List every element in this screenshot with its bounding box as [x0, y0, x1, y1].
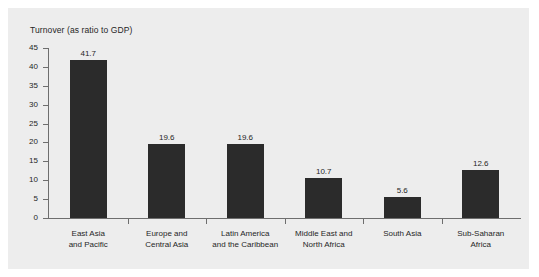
x-axis-tick	[285, 219, 286, 224]
y-axis-tick	[43, 124, 48, 125]
bar-group: 19.6	[227, 48, 264, 218]
x-axis-tick	[206, 219, 207, 224]
y-axis-tick-label: 0	[0, 213, 38, 222]
x-axis-category-label-line: Africa	[442, 239, 521, 250]
bar-group: 41.7	[70, 48, 107, 218]
bar	[70, 60, 107, 218]
bar-value-label: 10.7	[305, 167, 342, 176]
bar-value-label: 41.7	[70, 49, 107, 58]
x-axis-category-label: East Asiaand Pacific	[49, 228, 128, 250]
y-axis-tick-label: 15	[0, 156, 38, 165]
bar-value-label: 5.6	[384, 186, 421, 195]
y-axis-tick-label: 35	[0, 81, 38, 90]
x-axis-category-label-line: South Asia	[363, 228, 442, 239]
x-axis-category-label-line: Central Asia	[128, 239, 207, 250]
x-axis-category-label: Sub-SaharanAfrica	[442, 228, 521, 250]
x-axis-category-label: Middle East andNorth Africa	[285, 228, 364, 250]
x-axis-category-label: South Asia	[363, 228, 442, 239]
bar	[384, 197, 421, 218]
chart-title: Turnover (as ratio to GDP)	[30, 25, 132, 35]
y-axis-tick	[43, 180, 48, 181]
bar-value-label: 19.6	[148, 133, 185, 142]
bar	[462, 170, 499, 218]
y-axis-tick-label: 10	[0, 175, 38, 184]
x-axis-category-label-line: Latin America	[206, 228, 285, 239]
bar-value-label: 12.6	[462, 159, 499, 168]
x-axis-category-label-line: and Pacific	[49, 239, 128, 250]
chart-figure: Turnover (as ratio to GDP) 0510152025303…	[0, 0, 539, 277]
bar-group: 12.6	[462, 48, 499, 218]
x-axis-category-label-line: Europe and	[128, 228, 207, 239]
y-axis-tick	[43, 67, 48, 68]
x-axis-category-label-line: North Africa	[285, 239, 364, 250]
x-axis-category-label-line: East Asia	[49, 228, 128, 239]
bar-group: 5.6	[384, 48, 421, 218]
x-axis-tick	[442, 219, 443, 224]
bar-group: 19.6	[148, 48, 185, 218]
y-axis-tick	[43, 142, 48, 143]
x-axis-tick	[128, 219, 129, 224]
y-axis-tick	[43, 199, 48, 200]
bar	[148, 144, 185, 218]
bar	[305, 178, 342, 218]
x-axis-category-label-line: Sub-Saharan	[442, 228, 521, 239]
y-axis-tick-label: 40	[0, 62, 38, 71]
bar-group: 10.7	[305, 48, 342, 218]
x-axis-category-label: Latin Americaand the Caribbean	[206, 228, 285, 250]
bar	[227, 144, 264, 218]
y-axis-tick-label: 25	[0, 119, 38, 128]
y-axis-tick-label: 45	[0, 43, 38, 52]
bar-value-label: 19.6	[227, 133, 264, 142]
y-axis-tick-label: 30	[0, 100, 38, 109]
y-axis-tick	[43, 48, 48, 49]
y-axis-tick	[43, 161, 48, 162]
y-axis-tick-label: 20	[0, 137, 38, 146]
x-axis-category-label-line: Middle East and	[285, 228, 364, 239]
x-axis-tick	[363, 219, 364, 224]
x-axis-category-label-line: and the Caribbean	[206, 239, 285, 250]
y-axis-tick	[43, 218, 48, 219]
plot-area: 41.719.619.610.75.612.6	[49, 48, 520, 218]
y-axis-tick-label: 5	[0, 194, 38, 203]
y-axis-tick	[43, 86, 48, 87]
y-axis-tick	[43, 105, 48, 106]
x-axis-category-label: Europe andCentral Asia	[128, 228, 207, 250]
